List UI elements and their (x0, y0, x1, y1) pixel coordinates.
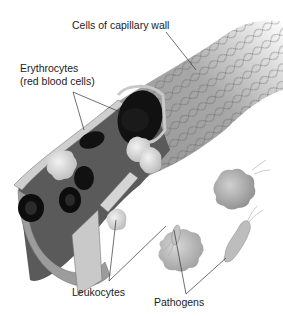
leukocyte-outside (158, 224, 203, 271)
label-capillary-wall: Cells of capillary wall (72, 19, 169, 31)
label-red-blood-cells: (red blood cells) (20, 75, 95, 87)
diagram-artwork (0, 0, 283, 316)
pathogens (213, 160, 270, 262)
capillary-diagram: Cells of capillary wall Erythrocytes (re… (0, 0, 283, 316)
label-pathogens: Pathogens (154, 296, 204, 308)
leader-leukocyte-2 (109, 226, 166, 281)
leader-erythrocyte-2 (73, 92, 120, 112)
label-leukocytes: Leukocytes (72, 286, 125, 298)
label-erythrocytes: Erythrocytes (20, 62, 78, 74)
leader-erythrocyte-1 (73, 92, 84, 130)
